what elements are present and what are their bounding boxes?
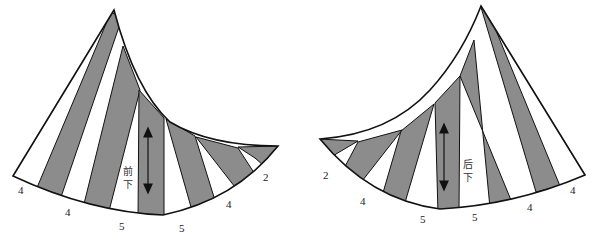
measurement: 4 (527, 201, 533, 213)
measurement: 2 (263, 171, 269, 183)
front-label-2: 下 (123, 179, 133, 190)
back-label-1: 后 (463, 159, 473, 170)
measurement: 5 (119, 220, 125, 232)
measurement: 5 (420, 213, 426, 225)
measurement: 4 (360, 195, 366, 207)
stripe (138, 90, 164, 220)
measurement: 4 (226, 198, 232, 210)
front-label-1: 前 (123, 165, 133, 177)
back-piece: 后 下 2 4 5 5 4 4 (318, 4, 585, 225)
measurement: 4 (65, 206, 71, 218)
back-label-2: 下 (463, 172, 473, 183)
front-piece: 前 下 4 4 5 5 4 2 (13, 10, 280, 234)
measurement: 2 (323, 169, 329, 181)
measurement: 5 (179, 222, 185, 234)
measurement: 4 (570, 184, 576, 196)
measurement: 4 (18, 184, 24, 196)
measurement: 5 (472, 211, 478, 223)
pattern-diagram: 前 下 4 4 5 5 4 2 后 下 2 4 5 5 4 4 (0, 0, 595, 239)
